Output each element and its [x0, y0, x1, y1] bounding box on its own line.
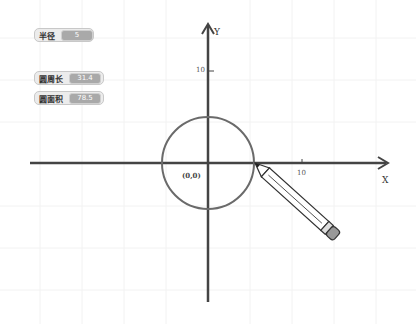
monitor-value: 5 [61, 30, 93, 41]
stage[interactable]: Y X 10 10 (0,0) 半径 5 圆周长 31.4 圆面积 78.5 [0, 0, 416, 324]
pencil-icon [251, 159, 341, 242]
monitor-value: 31.4 [69, 73, 101, 84]
coordinate-plane [0, 0, 416, 324]
x-axis-label: X [382, 175, 388, 185]
origin-label: (0,0) [182, 171, 201, 180]
y-axis-label: Y [214, 27, 220, 37]
monitor-radius: 半径 5 [34, 28, 94, 42]
monitor-label: 圆面积 [39, 93, 63, 104]
monitor-value: 78.5 [69, 93, 101, 104]
x-tick-label: 10 [297, 169, 306, 177]
monitor-label: 圆周长 [39, 73, 63, 84]
monitor-label: 半径 [39, 30, 55, 41]
monitor-area: 圆面积 78.5 [34, 91, 104, 105]
y-tick-label: 10 [196, 66, 205, 74]
monitor-circumference: 圆周长 31.4 [34, 71, 104, 85]
